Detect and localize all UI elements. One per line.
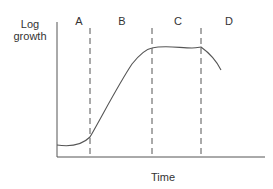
x-axis-label: Time [151, 171, 175, 183]
phase-label-b: B [118, 15, 125, 27]
growth-curve [57, 47, 221, 146]
y-axis-label-line2: growth [13, 30, 46, 42]
y-axis-label-line1: Log [21, 18, 39, 30]
growth-curve-diagram: Log growth A B C D Time [0, 0, 273, 189]
phase-label-a: A [75, 15, 83, 27]
phase-label-c: C [174, 15, 182, 27]
phase-label-d: D [225, 15, 233, 27]
